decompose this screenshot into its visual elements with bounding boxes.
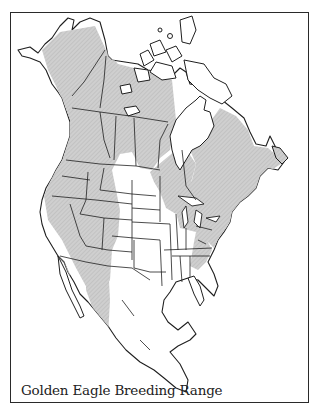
north-america-map: [0, 0, 324, 415]
map-title: Golden Eagle Breeding Range: [21, 382, 222, 398]
